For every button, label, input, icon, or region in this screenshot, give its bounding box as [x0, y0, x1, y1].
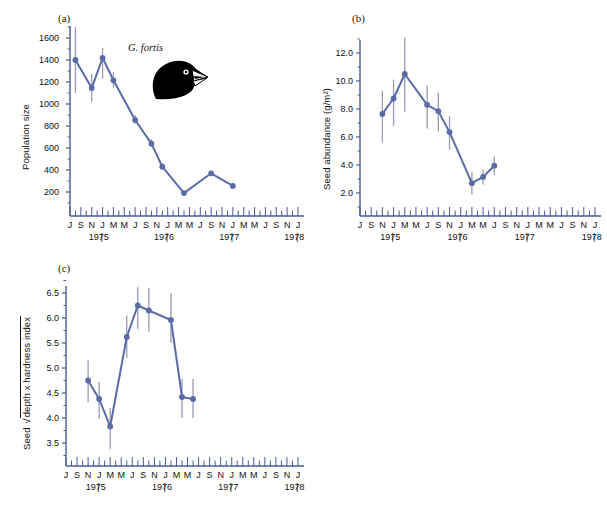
- xaxis-year-divider: |: [163, 482, 165, 492]
- xaxis-year-divider: |: [392, 232, 394, 242]
- xaxis-month-label: J: [522, 220, 534, 230]
- xaxis-year-divider: |: [101, 232, 103, 242]
- xaxis-month-label: N: [578, 220, 590, 230]
- xaxis-year-label: 1978: [275, 482, 315, 492]
- xaxis-month-label: J: [354, 220, 366, 230]
- xaxis-year-divider: |: [166, 232, 168, 242]
- xaxis-year-divider: |: [296, 482, 298, 492]
- xaxis-month-label: M: [544, 220, 556, 230]
- xaxis-year-label: 1975: [79, 232, 119, 242]
- xaxis-year-label: 1977: [209, 232, 249, 242]
- panel-b-xaxis-labels: JSNJMMJSNJMMJSNJMMJSNJ1975197619771978||…: [305, 0, 607, 255]
- panel-c-xaxis-labels: JSNJMMJSNJMMJSNJMMJSNJ1975197619771978||…: [0, 250, 310, 505]
- xaxis-month-label: M: [466, 220, 478, 230]
- xaxis-month-label: S: [499, 220, 511, 230]
- xaxis-year-label: 1975: [76, 482, 116, 492]
- panel-a: (a) Population size 1600 1400 1200 1000 …: [0, 0, 310, 255]
- xaxis-year-divider: |: [593, 232, 595, 242]
- xaxis-month-label: J: [388, 220, 400, 230]
- xaxis-year-label: 1976: [144, 232, 184, 242]
- xaxis-year-label: 1977: [208, 482, 248, 492]
- xaxis-year-label: 1975: [370, 232, 410, 242]
- xaxis-month-label: S: [567, 220, 579, 230]
- xaxis-month-label: J: [555, 220, 567, 230]
- xaxis-year-label: 1976: [142, 482, 182, 492]
- xaxis-month-label: S: [432, 220, 444, 230]
- xaxis-month-label: J: [292, 220, 304, 230]
- xaxis-month-label: N: [376, 220, 388, 230]
- xaxis-month-label: J: [488, 220, 500, 230]
- xaxis-month-label: J: [589, 220, 601, 230]
- xaxis-month-label: J: [455, 220, 467, 230]
- panel-a-xaxis-labels: JSNJMMJSNJMMJSNJMMJSNJ1975197619771978||…: [0, 0, 310, 255]
- xaxis-month-label: M: [410, 220, 422, 230]
- xaxis-month-label: M: [399, 220, 411, 230]
- xaxis-month-label: N: [511, 220, 523, 230]
- xaxis-month-label: M: [477, 220, 489, 230]
- xaxis-year-label: 1977: [505, 232, 545, 242]
- xaxis-year-label: 1976: [438, 232, 478, 242]
- xaxis-month-label: J: [421, 220, 433, 230]
- panel-b: (b) Seed abundance (g/m²) 12.0 10.0 8.0 …: [305, 0, 607, 255]
- xaxis-month-label: S: [365, 220, 377, 230]
- xaxis-year-divider: |: [231, 232, 233, 242]
- xaxis-year-divider: |: [459, 232, 461, 242]
- xaxis-year-divider: |: [230, 482, 232, 492]
- panel-c: (c) Seed √depth x hardness index 6.5 6.0…: [0, 250, 310, 505]
- xaxis-month-label: N: [444, 220, 456, 230]
- xaxis-year-label: 1978: [572, 232, 607, 242]
- xaxis-month-label: M: [533, 220, 545, 230]
- xaxis-month-label: J: [292, 470, 304, 480]
- xaxis-year-divider: |: [97, 482, 99, 492]
- xaxis-year-divider: |: [296, 232, 298, 242]
- xaxis-year-divider: |: [526, 232, 528, 242]
- figure-root: (a) Population size 1600 1400 1200 1000 …: [0, 0, 607, 505]
